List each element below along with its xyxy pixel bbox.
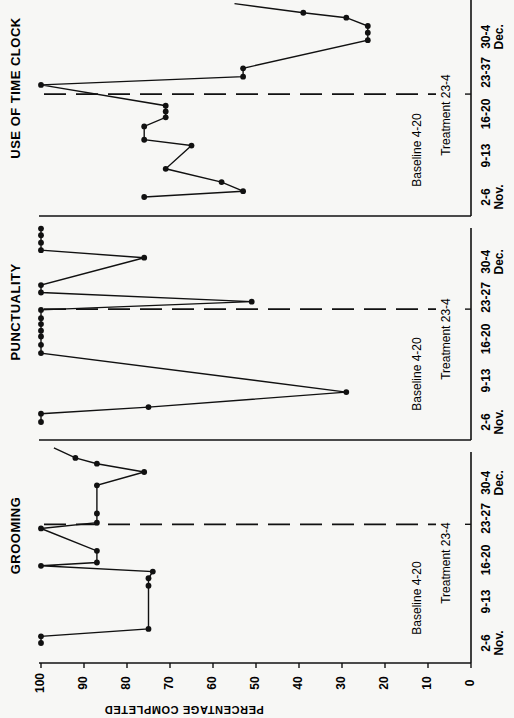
data-point bbox=[365, 30, 371, 36]
data-point bbox=[38, 290, 44, 296]
data-point bbox=[343, 15, 349, 21]
data-point bbox=[38, 640, 44, 646]
series-line bbox=[41, 229, 346, 422]
data-point bbox=[146, 575, 152, 581]
data-point bbox=[38, 315, 44, 321]
phase-label-baseline: Baseline 4-20 bbox=[410, 337, 424, 411]
month-label: Dec. bbox=[492, 470, 506, 495]
data-point bbox=[38, 419, 44, 425]
data-point bbox=[38, 321, 44, 327]
data-point bbox=[146, 626, 152, 632]
data-point bbox=[38, 82, 44, 88]
series-line bbox=[41, 448, 153, 643]
data-point bbox=[365, 23, 371, 29]
data-point bbox=[240, 74, 246, 80]
y-tick-label: 60 bbox=[205, 676, 219, 690]
week-tick-label: 16-20 bbox=[479, 98, 493, 129]
series-line bbox=[41, 4, 368, 197]
y-tick-label: 20 bbox=[377, 676, 391, 690]
data-point bbox=[163, 114, 169, 120]
data-point bbox=[38, 282, 44, 288]
data-point bbox=[141, 255, 147, 261]
data-point bbox=[94, 461, 100, 467]
data-point bbox=[146, 583, 152, 589]
week-tick-label: 23-37 bbox=[479, 57, 493, 88]
y-tick-label: 90 bbox=[76, 676, 90, 690]
chart-panel-3: GROOMING2-69-1316-2023-2730-4Nov.Dec.Bas… bbox=[8, 448, 506, 663]
week-tick-label: 23-27 bbox=[479, 282, 493, 313]
data-point bbox=[300, 10, 306, 16]
data-point bbox=[94, 520, 100, 526]
data-point bbox=[249, 299, 255, 305]
month-label: Dec. bbox=[492, 249, 506, 274]
data-point bbox=[38, 328, 44, 334]
chart-title: GROOMING bbox=[8, 497, 23, 575]
y-tick-label: 80 bbox=[119, 676, 133, 690]
data-point bbox=[38, 563, 44, 569]
phase-label-treatment: Treatment 23-4 bbox=[439, 522, 453, 604]
data-point bbox=[163, 109, 169, 115]
week-tick-label: 9-13 bbox=[479, 143, 493, 167]
data-point bbox=[141, 194, 147, 200]
week-tick-label: 30-4 bbox=[479, 470, 493, 494]
data-point bbox=[38, 411, 44, 417]
data-point bbox=[94, 560, 100, 566]
month-label: Nov. bbox=[492, 409, 506, 434]
week-tick-label: 16-20 bbox=[479, 544, 493, 575]
week-tick-label: 30-4 bbox=[479, 249, 493, 273]
y-axis: 0102030405060708090100PERCENTAGE COMPLET… bbox=[33, 663, 477, 716]
chart-title: USE OF TIME CLOCK bbox=[8, 17, 23, 159]
data-point bbox=[94, 511, 100, 517]
data-point bbox=[240, 188, 246, 194]
week-tick-label: 9-13 bbox=[479, 589, 493, 613]
y-tick-label: 40 bbox=[291, 676, 305, 690]
data-point bbox=[38, 342, 44, 348]
data-point bbox=[38, 240, 44, 246]
week-tick-label: 9-13 bbox=[479, 368, 493, 392]
y-tick-label: 100 bbox=[33, 673, 47, 693]
week-tick-label: 2-6 bbox=[479, 188, 493, 206]
y-tick-label: 70 bbox=[162, 676, 176, 690]
data-point bbox=[146, 404, 152, 410]
data-point bbox=[365, 37, 371, 43]
data-point bbox=[38, 307, 44, 313]
chart-panel-2: PUNCTUALITY2-69-1316-2023-2730-4Nov.Dec.… bbox=[8, 226, 506, 440]
phase-label-baseline: Baseline 4-20 bbox=[410, 113, 424, 187]
data-point bbox=[240, 65, 246, 71]
y-axis-title: PERCENTAGE COMPLETED bbox=[104, 704, 264, 716]
chart-panel-1: USE OF TIME CLOCK2-69-1316-2023-3730-4No… bbox=[8, 0, 506, 216]
data-point bbox=[73, 455, 79, 461]
data-point bbox=[343, 389, 349, 395]
week-tick-label: 2-6 bbox=[479, 634, 493, 652]
phase-label-baseline: Baseline 4-20 bbox=[410, 561, 424, 635]
data-point bbox=[38, 247, 44, 253]
data-point bbox=[219, 179, 225, 185]
data-point bbox=[141, 124, 147, 130]
month-label: Nov. bbox=[492, 630, 506, 655]
week-tick-label: 30-4 bbox=[479, 24, 493, 48]
data-point bbox=[163, 103, 169, 109]
chart-title: PUNCTUALITY bbox=[8, 263, 23, 360]
week-tick-label: 2-6 bbox=[479, 413, 493, 431]
week-tick-label: 16-20 bbox=[479, 323, 493, 354]
data-point bbox=[38, 232, 44, 238]
data-point bbox=[141, 137, 147, 143]
month-label: Dec. bbox=[492, 24, 506, 49]
data-point bbox=[38, 226, 44, 232]
data-point bbox=[150, 569, 156, 575]
data-point bbox=[94, 482, 100, 488]
week-tick-label: 23-27 bbox=[479, 503, 493, 534]
data-point bbox=[189, 143, 195, 149]
y-tick-label: 10 bbox=[420, 676, 434, 690]
data-point bbox=[141, 469, 147, 475]
data-point bbox=[38, 633, 44, 639]
data-point bbox=[38, 334, 44, 340]
month-label: Nov. bbox=[492, 184, 506, 209]
data-point bbox=[38, 526, 44, 532]
data-point bbox=[163, 166, 169, 172]
phase-label-treatment: Treatment 23-4 bbox=[439, 74, 453, 156]
phase-label-treatment: Treatment 23-4 bbox=[439, 298, 453, 380]
y-tick-label: 30 bbox=[334, 676, 348, 690]
y-tick-label: 50 bbox=[248, 676, 262, 690]
data-point bbox=[38, 350, 44, 356]
